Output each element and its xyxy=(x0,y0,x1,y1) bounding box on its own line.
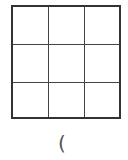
grid-cell-r1-c2[interactable] xyxy=(49,7,85,45)
canvas: ( xyxy=(0,0,128,160)
tic-tac-toe-grid xyxy=(11,5,121,119)
grid-cell-r3-c2[interactable] xyxy=(49,83,85,117)
grid-cell-r2-c1[interactable] xyxy=(13,45,49,83)
grid-cell-r1-c3[interactable] xyxy=(85,7,119,45)
grid-cell-r2-c2[interactable] xyxy=(49,45,85,83)
grid-cell-r2-c3[interactable] xyxy=(85,45,119,83)
grid-cell-r1-c1[interactable] xyxy=(13,7,49,45)
caption-text: ( xyxy=(55,131,69,155)
grid-cell-r3-c1[interactable] xyxy=(13,83,49,117)
grid-cell-r3-c3[interactable] xyxy=(85,83,119,117)
